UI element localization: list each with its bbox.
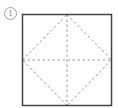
diamond-bottom-left-line — [23, 60, 68, 106]
diamond-right-bottom-line — [67, 60, 112, 106]
fold-lines — [23, 15, 112, 106]
diamond-left-top-line — [23, 15, 68, 61]
diamond-top-right-line — [67, 15, 112, 61]
folding-diagram — [0, 0, 118, 108]
